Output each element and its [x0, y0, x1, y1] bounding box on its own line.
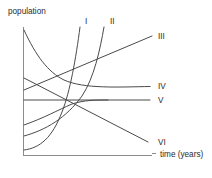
population-vs-time-chart: population time (years) I II III IV V VI — [0, 0, 212, 178]
x-axis-title: time (years) — [160, 150, 203, 159]
curve-II — [24, 27, 104, 136]
series-label-IV: IV — [158, 82, 166, 91]
curve-rise-to-constant — [24, 100, 108, 125]
curve-IV — [24, 30, 150, 87]
series-label-VI: VI — [158, 138, 166, 147]
series-label-II: II — [110, 17, 115, 26]
chart-figure: population time (years) I II III IV V VI — [0, 0, 212, 178]
y-axis-title: population — [8, 7, 46, 16]
series-label-V: V — [158, 96, 164, 105]
curve-VI — [24, 78, 148, 142]
series-label-I: I — [85, 17, 87, 26]
series-label-III: III — [158, 32, 165, 41]
